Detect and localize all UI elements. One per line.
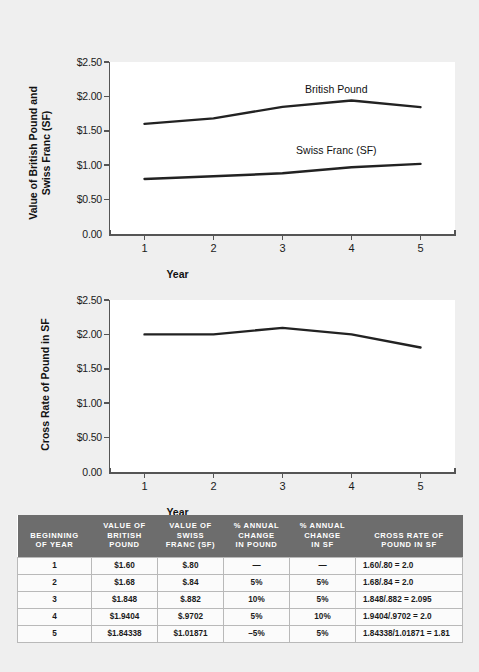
table-cell: 1.68/.84 = 2.0 <box>356 574 463 591</box>
x-axis-end-cap <box>109 468 111 473</box>
table-row: 4$1.9404$.97025%10%1.9404/.9702 = 2.0 <box>18 608 463 625</box>
table-cell: 5% <box>290 574 356 591</box>
table-column-header: % ANNUALCHANGEIN SF <box>290 515 356 557</box>
y-tick-mark <box>104 199 109 201</box>
x-tick-mark <box>282 235 284 240</box>
table-cell: 10% <box>224 591 290 608</box>
y-tick-mark <box>104 402 109 404</box>
x-axis-end-cap <box>454 230 456 235</box>
table-row: 2$1.68$.845%5%1.68/.84 = 2.0 <box>18 574 463 591</box>
series-annotation-label: Swiss Franc (SF) <box>296 144 377 156</box>
table-cell: $.882 <box>158 591 224 608</box>
table-header-row: BEGINNINGOF YEARVALUE OFBRITISHPOUNDVALU… <box>18 515 463 557</box>
x-tick-mark <box>213 235 215 240</box>
table-row: 3$1.848$.88210%5%1.848/.882 = 2.095 <box>18 591 463 608</box>
x-tick-label: 1 <box>130 480 160 492</box>
x-tick-label: 1 <box>130 242 160 254</box>
x-tick-mark <box>351 473 353 478</box>
figure-page: $2.50$2.00$1.50$1.00$0.500.00 12345 Brit… <box>0 0 479 672</box>
table-cell: 1.84338/1.01871 = 1.81 <box>356 625 463 642</box>
x-tick-mark <box>144 235 146 240</box>
table-cell-year: 2 <box>18 574 92 591</box>
table-cell: — <box>290 557 356 574</box>
table-cell: 5% <box>290 591 356 608</box>
table-cell: — <box>224 557 290 574</box>
x-tick-label: 4 <box>337 242 367 254</box>
y-tick-mark <box>104 164 109 166</box>
x-tick-label: 3 <box>268 480 298 492</box>
y-axis-title-values: Value of British Pound and Swiss Franc (… <box>27 63 53 243</box>
y-axis-title-cross-rate: Cross Rate of Pound in SF <box>39 295 52 475</box>
series-line <box>145 101 421 124</box>
x-tick-mark <box>282 473 284 478</box>
table-cell: $1.84338 <box>92 625 158 642</box>
table-cell: $1.01871 <box>158 625 224 642</box>
table-column-header: CROSS RATE OFPOUND IN SF <box>356 515 463 557</box>
x-tick-mark <box>420 473 422 478</box>
table-column-header: VALUE OFBRITISHPOUND <box>92 515 158 557</box>
plot-area-cross-rate <box>110 300 455 472</box>
y-axis-cross-rate <box>109 300 111 473</box>
y-axis-values <box>109 62 111 235</box>
x-tick-label: 4 <box>337 480 367 492</box>
table-cell: $.80 <box>158 557 224 574</box>
table-cell: 1.9404/.9702 = 2.0 <box>356 608 463 625</box>
y-tick-mark <box>104 299 109 301</box>
table-cell-year: 1 <box>18 557 92 574</box>
x-axis-end-cap <box>454 468 456 473</box>
y-tick-mark <box>104 61 109 63</box>
table-body: 1$1.60$.80——1.60/.80 = 2.02$1.68$.845%5%… <box>18 557 463 642</box>
table-cell-year: 5 <box>18 625 92 642</box>
table-cell: 1.848/.882 = 2.095 <box>356 591 463 608</box>
y-tick-mark <box>104 96 109 98</box>
table-cell: 5% <box>224 574 290 591</box>
series-line <box>145 328 421 348</box>
chart-values: $2.50$2.00$1.50$1.00$0.500.00 12345 Brit… <box>0 18 479 276</box>
x-tick-mark <box>144 473 146 478</box>
table-cell: 10% <box>290 608 356 625</box>
table-cell: $1.60 <box>92 557 158 574</box>
series-line <box>145 164 421 179</box>
x-tick-label: 5 <box>406 480 436 492</box>
table-cell: $.9702 <box>158 608 224 625</box>
table-cell: $1.9404 <box>92 608 158 625</box>
chart-cross-rate: $2.50$2.00$1.50$1.00$0.500.00 12345 Cros… <box>0 276 479 508</box>
table-row: 5$1.84338$1.01871–5%5%1.84338/1.01871 = … <box>18 625 463 642</box>
table-cell: $1.848 <box>92 591 158 608</box>
x-tick-mark <box>351 235 353 240</box>
x-axis-end-cap <box>109 230 111 235</box>
exchange-rate-table: BEGINNINGOF YEARVALUE OFBRITISHPOUNDVALU… <box>17 515 463 643</box>
table-cell: 1.60/.80 = 2.0 <box>356 557 463 574</box>
table-column-header: VALUE OFSWISSFRANC (SF) <box>158 515 224 557</box>
table-cell-year: 4 <box>18 608 92 625</box>
table-row: 1$1.60$.80——1.60/.80 = 2.0 <box>18 557 463 574</box>
plot-area-values <box>110 62 455 234</box>
series-annotation-label: British Pound <box>305 83 367 95</box>
table-cell: 5% <box>224 608 290 625</box>
x-tick-mark <box>213 473 215 478</box>
x-tick-label: 5 <box>406 242 436 254</box>
y-tick-mark <box>104 130 109 132</box>
table-cell: $.84 <box>158 574 224 591</box>
table-cell-year: 3 <box>18 591 92 608</box>
table-column-header: BEGINNINGOF YEAR <box>18 515 92 557</box>
table-column-header: % ANNUALCHANGEIN POUND <box>224 515 290 557</box>
x-tick-label: 2 <box>199 242 229 254</box>
x-tick-mark <box>420 235 422 240</box>
x-tick-label: 3 <box>268 242 298 254</box>
table-cell: 5% <box>290 625 356 642</box>
y-tick-mark <box>104 368 109 370</box>
table-cell: –5% <box>224 625 290 642</box>
y-tick-mark <box>104 334 109 336</box>
plot-lines-values <box>110 62 455 234</box>
table-cell: $1.68 <box>92 574 158 591</box>
x-tick-label: 2 <box>199 480 229 492</box>
y-tick-mark <box>104 437 109 439</box>
plot-lines-cross-rate <box>110 300 455 472</box>
